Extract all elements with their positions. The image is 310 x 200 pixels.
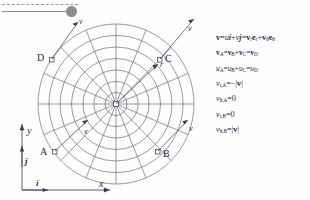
equation-line: vθ,A=0 — [216, 95, 308, 103]
point-C-marker — [158, 58, 163, 63]
polar-velocity-diagram: r D v C v A v — [8, 12, 213, 197]
point-B-vector-label: v — [189, 124, 193, 133]
point-A-label: A — [40, 146, 48, 157]
point-B-marker — [156, 150, 161, 155]
equation-line: uA=uB+uC=uD — [216, 65, 308, 73]
point-D-marker — [50, 58, 55, 63]
point-B-label: B — [163, 148, 170, 159]
grid-spoke — [61, 104, 116, 161]
slider-dashed-guide — [2, 4, 78, 5]
point-D-vector — [52, 22, 78, 59]
unit-vector-i-label: i — [36, 178, 39, 188]
equation-line: vθ,B=|v| — [216, 126, 308, 134]
point-A-vector-label: v — [84, 127, 88, 136]
point-C-label: C — [165, 53, 172, 64]
cartesian-axes — [20, 124, 110, 192]
equation-line: v=ui+vj=vrer+vθeθ — [216, 34, 308, 42]
equation-list: v=ui+vj=vrer+vθeθ vA=vB+vC=vD uA=uB+uC=u… — [216, 34, 308, 142]
equation-line: vr,A=−|v| — [216, 80, 308, 88]
point-D-vector-label: v — [79, 17, 83, 26]
point-C-vector-label: v — [188, 24, 192, 33]
grid-spoke — [61, 47, 116, 104]
axis-y-label: y — [26, 125, 32, 136]
equation-line: vr,B=0 — [216, 111, 308, 119]
unit-vector-j-label: j — [23, 156, 28, 166]
axis-x-label: x — [98, 178, 104, 189]
equation-line: vA=vB+vC=vD — [216, 49, 308, 57]
point-D-label: D — [37, 52, 44, 63]
screenshot-root: r D v C v A v — [0, 0, 310, 200]
